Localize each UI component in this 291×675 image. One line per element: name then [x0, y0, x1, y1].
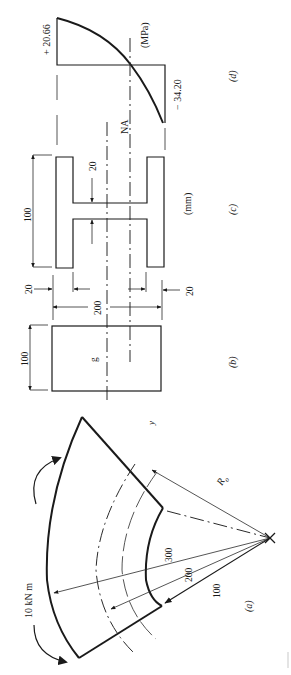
max-compression-label: − 34.20 [172, 79, 183, 110]
width-label: 100 [20, 352, 30, 367]
max-tension-label: + 20.66 [41, 24, 52, 55]
moment-arrow-top [34, 458, 60, 504]
radius-300-label: 300 [164, 548, 174, 563]
stress-units-label: (MPa) [139, 22, 151, 48]
top-radial-edge [82, 417, 163, 508]
centroidal-arc [96, 464, 135, 653]
radius-300-line [54, 538, 270, 593]
neutral-arc [122, 472, 157, 639]
stress-distribution-panel: + 20.66 − 34.20 (MPa) (d) [41, 18, 239, 150]
y-axis-label: y [146, 421, 156, 426]
flange-thickness-bottom-label: 20 [185, 286, 195, 296]
panel-c-label: (c) [227, 203, 239, 215]
i-section-panel: 100 20 (mm) (c) [23, 155, 239, 268]
panel-d-label: (d) [227, 70, 239, 82]
web-thickness-label: 20 [88, 161, 98, 171]
radius-200-label: 200 [184, 568, 194, 583]
curved-beam-panel: Ro y 300 200 100 10 kN m (a) [23, 417, 275, 662]
panel-a-label: (a) [243, 600, 255, 612]
bottom-radial-edge [79, 606, 162, 658]
moment-label: 10 kN m [23, 583, 34, 618]
neutral-axis-label: NA [119, 119, 130, 134]
radius-100-label: 100 [212, 584, 222, 599]
ro-radius-line [152, 470, 270, 538]
flange-width-label: 100 [23, 208, 33, 223]
panel-b-label: (b) [227, 356, 239, 368]
radial-centerline [167, 511, 270, 538]
curved-beam-figure: + 20.66 − 34.20 (MPa) (d) NA 100 20 [0, 0, 291, 675]
depth-label: 200 [93, 301, 103, 316]
ro-label: Ro [214, 473, 232, 490]
inner-arc [146, 508, 163, 606]
depth-dimensions: 20 20 200 [24, 272, 195, 320]
i-section-outline [56, 157, 164, 268]
flange-thickness-top-label: 20 [24, 284, 34, 294]
outer-arc [47, 417, 82, 658]
units-label: (mm) [182, 193, 194, 215]
centroid-label: g [89, 357, 99, 362]
